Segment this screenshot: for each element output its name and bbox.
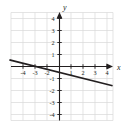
y-tick-label-neg3: -3 — [49, 99, 54, 106]
y-tick-label-2: 2 — [52, 39, 55, 46]
x-tick-label-4: 4 — [105, 69, 108, 76]
x-tick-label-2: 2 — [81, 69, 84, 76]
x-axis-label: x — [116, 63, 121, 72]
y-tick-label-4: 4 — [52, 15, 55, 22]
y-tick-label-neg2: -2 — [49, 87, 54, 94]
y-tick-label-3: 3 — [52, 27, 55, 34]
x-tick-label-neg4: -4 — [20, 69, 25, 76]
y-axis-arrow-up — [57, 12, 63, 19]
y-tick-label-neg1: -1 — [49, 75, 54, 82]
graph-figure: -4 -3 -2 1 2 3 4 4 3 2 1 -1 -2 -3 -4 y x — [0, 0, 125, 127]
y-tick-label-1: 1 — [52, 51, 55, 58]
y-axis-label: y — [62, 3, 67, 12]
x-tick-label-3: 3 — [93, 69, 96, 76]
y-tick-label-neg4: -4 — [49, 111, 54, 118]
x-tick-label-neg3: -3 — [32, 69, 37, 76]
coordinate-plane-svg: -4 -3 -2 1 2 3 4 4 3 2 1 -1 -2 -3 -4 y x — [0, 0, 125, 127]
